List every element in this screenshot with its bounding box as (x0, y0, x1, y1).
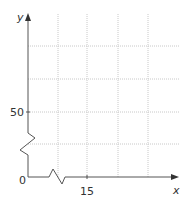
grid-horizontal (28, 46, 180, 144)
x-axis-arrow-icon (171, 174, 179, 180)
y-axis-arrow-icon (25, 13, 31, 21)
grid-vertical (58, 14, 148, 177)
y-tick-label-50: 50 (10, 106, 24, 119)
y-axis-label: y (16, 11, 24, 24)
x-tick-label-15: 15 (80, 185, 94, 198)
chart-canvas: y x 50 0 15 (0, 0, 189, 205)
origin-label: 0 (19, 174, 26, 187)
x-axis-label: x (172, 184, 180, 197)
x-axis (28, 169, 172, 184)
y-axis (20, 20, 35, 177)
